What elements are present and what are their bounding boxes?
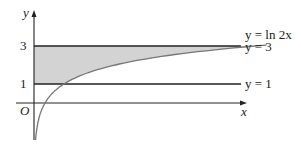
line1-label: y = 1: [245, 76, 272, 91]
tick-3: 3: [20, 38, 27, 53]
x-axis-label: x: [240, 104, 247, 119]
line3-label: y = 3: [245, 39, 272, 54]
y-axis-arrow: [32, 10, 37, 17]
tick-1: 1: [20, 76, 27, 91]
shaded-region: [34, 46, 255, 84]
graph: y 3 1 O x y = ln 2x y = 3 y = 1: [0, 0, 301, 150]
y-axis-label: y: [21, 5, 29, 20]
origin-label: O: [20, 103, 30, 118]
